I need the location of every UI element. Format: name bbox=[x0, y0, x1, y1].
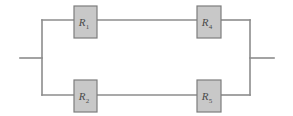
resistor-r4-symbol: R bbox=[201, 16, 209, 28]
resistor-r2-symbol: R bbox=[78, 90, 86, 102]
circuit-diagram: R1 R4 R2 R5 bbox=[0, 0, 293, 116]
resistor-r4-subscript: 4 bbox=[209, 23, 213, 31]
resistor-r1-body bbox=[74, 6, 97, 38]
resistor-r1-subscript: 1 bbox=[86, 23, 90, 31]
circuit-schematic-canvas: R1 R4 R2 R5 bbox=[0, 0, 293, 116]
resistor-r5-body bbox=[197, 80, 221, 112]
resistor-r1-symbol: R bbox=[78, 16, 86, 28]
resistor-r2-body bbox=[74, 80, 97, 112]
resistor-r2-subscript: 2 bbox=[86, 97, 90, 105]
resistor-r5-symbol: R bbox=[201, 90, 209, 102]
resistor-r5-subscript: 5 bbox=[209, 97, 213, 105]
resistor-r4-body bbox=[197, 6, 221, 38]
